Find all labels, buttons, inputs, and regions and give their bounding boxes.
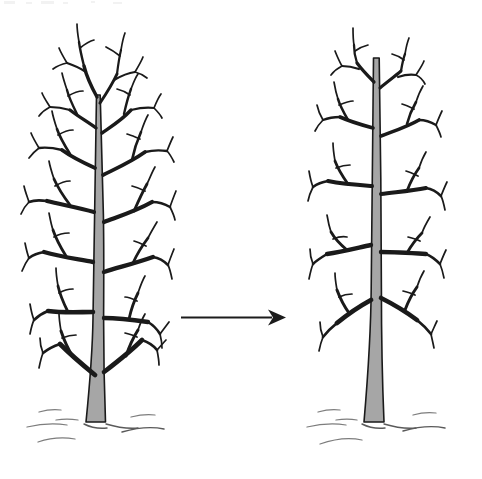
illustration-canvas: Tree pruning before and after diagram [0,0,482,479]
tree-pruning-figure: Tree pruning before and after diagram [0,0,482,479]
background-rect [0,0,482,479]
